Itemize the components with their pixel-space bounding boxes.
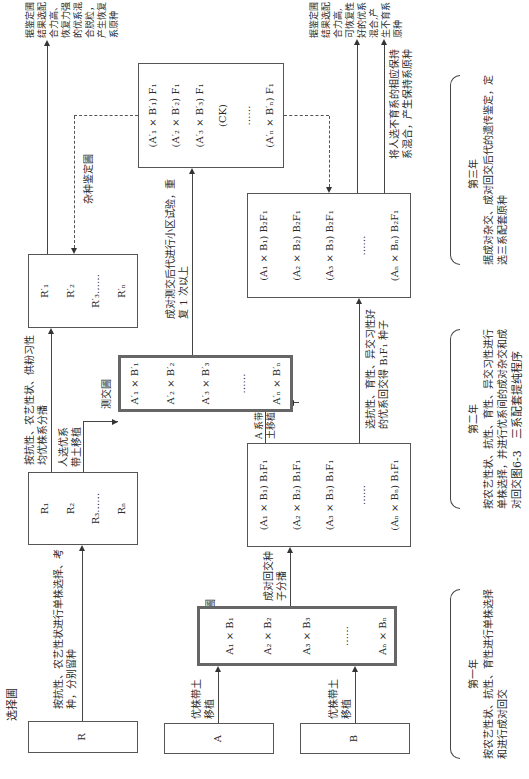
r-prime-item: R′₂	[65, 284, 76, 298]
b1f1-item: ……	[356, 485, 367, 505]
edge-label-b-to-backcross: 优株带土移植	[327, 671, 353, 719]
b1f1-item: (Aₙ × Bₙ) B₁F₁	[389, 459, 400, 530]
f1-item: (A′₁ × B′₁) F₁	[147, 84, 158, 148]
testcross-pair: A′₁ × B′₁	[129, 363, 140, 405]
f1-item: (A′₂ × B′₂) F₁	[170, 84, 181, 148]
box-R: R	[28, 721, 138, 753]
b1f1-item: (A₁ × B₁) B₁F₁	[258, 460, 269, 531]
edge-rseries-to-testcross	[83, 422, 84, 472]
dashed-f1-to-rprime	[74, 116, 75, 248]
arrow-icon	[44, 40, 50, 46]
arrow-icon	[112, 419, 118, 425]
box-A-label: A	[212, 724, 223, 753]
box-B-label: B	[348, 724, 359, 753]
b2f1-item: ……	[356, 236, 367, 256]
edge-label-b2f1-result: 据鉴定圃结果选配合力高,可恢复性好的优系混合,产生不育系原种	[308, 2, 404, 38]
edge-label-a-to-backcross: 优株带土移植	[190, 671, 216, 719]
dashed-f1-to-b2f1	[329, 116, 330, 187]
r-prime-item: R′₁	[39, 284, 50, 298]
edge-label-rseries-to-testcross: 人选优系带土移植	[57, 423, 83, 467]
b2f1-item: (A₁ × B₁) B₂F₁	[258, 210, 269, 281]
dashed-f1-to-b2f1-vertical	[284, 115, 329, 116]
b2f1-item: (Aₙ × Bₙ) B₂F₁	[389, 210, 400, 281]
backcross-pair: ……	[339, 626, 350, 646]
arrow-icon	[48, 328, 54, 334]
backcross-pair: A₂ × B₂	[262, 617, 273, 654]
box-b1f1: (A₁ × B₁) B₁F₁ (A₂ × B₂) B₁F₁ (A₃ × B₃) …	[247, 443, 411, 547]
arrow-icon	[354, 39, 360, 45]
hybrid-identification-label: 杂种鉴定圃	[82, 154, 95, 204]
edge-label-rseries-to-rprime: 按抗性、农艺性状、供粉习性均优株系分播	[23, 335, 49, 465]
testcross-pair: A′₃ × B′₃	[200, 363, 211, 405]
testcross-nursery-label: 测交圃	[100, 379, 113, 409]
backcross-pair: A₁ × B₁	[224, 617, 235, 654]
b2f1-item: (A₃ × B₃) B₂F₁	[324, 210, 335, 281]
testcross-pair: ……	[236, 374, 247, 394]
testcross-nursery-box: A′₁ × B′₁ A′₂ × B′₂ A′₃ × B′₃ …… A′ₙ × B…	[118, 355, 293, 412]
box-B: B	[300, 723, 410, 754]
edge-rprime-to-result	[47, 46, 48, 254]
arrow-icon	[79, 545, 85, 551]
arrow-icon	[381, 39, 387, 45]
year-3-desc: 据成对杂交、成对回交后代的遗传鉴定，定选三系配套原种	[482, 75, 510, 265]
brace-year-1	[450, 589, 460, 759]
edge-label-testcross-to-f1: 成对测交后代进行小区试验，重复 1 次以上	[164, 179, 190, 319]
edge-label-b2f1-maintainer: 将人选不育系的相应保持系混合，产生保持系原种	[388, 49, 414, 159]
edge-label-backcross-to-b1f1: 成对回交种子分播	[262, 551, 288, 601]
f1-item: ……	[241, 106, 252, 126]
edge-a-to-backcross	[218, 671, 219, 723]
r-prime-item: R′ₙ	[116, 284, 127, 298]
brace-year-3	[450, 75, 460, 265]
arrow-icon	[71, 248, 77, 254]
arrow-icon	[326, 187, 332, 193]
edge-r-to-rseries	[82, 551, 83, 721]
edge-label-rprime-result: 据鉴定圃结果选配合力高、恢复力强的优系混合脱粒，产生恢复系原种	[24, 2, 120, 38]
edge-b-to-backcross	[355, 671, 356, 723]
dashed-f1-to-rprime-vertical	[74, 115, 138, 116]
testcross-pair: A′₂ × B′₂	[165, 363, 176, 405]
year-3-label: 第三年	[465, 159, 480, 189]
brace-year-2	[450, 329, 460, 509]
box-b2f1: (A₁ × B₁) B₂F₁ (A₂ × B₂) B₂F₁ (A₃ × B₃) …	[247, 193, 411, 298]
f1-item: (A′₃ × B′₃) F₁	[194, 84, 205, 148]
edge-label-b1f1-to-b2f1: 选抗性、育性、异交习性好的优系回交得 B₁F₁ 种子	[364, 301, 390, 429]
f1-item: (CK)	[217, 104, 228, 127]
year-1-label: 第一年	[465, 659, 480, 689]
edge-testcross-to-f1	[192, 174, 193, 355]
figure-caption: 图6-3 三系配套提纯程序	[508, 351, 524, 479]
edge-rseries-to-rprime	[51, 334, 52, 472]
b1f1-item: (A₂ × B₂) B₁F₁	[291, 460, 302, 531]
backcross-pair: Aₙ × Bₙ	[377, 617, 388, 655]
b2f1-item: (A₂ × B₂) B₂F₁	[291, 210, 302, 281]
edge-b2f1-to-result	[357, 45, 358, 193]
backcross-nursery-box: A₁ × B₁ A₂ × B₂ A₃ × B₃ …… Aₙ × Bₙ	[197, 606, 397, 666]
r-item: R₁	[39, 503, 50, 515]
b1f1-item: (A₃ × B₃) B₁F₁	[324, 460, 335, 531]
r-item: R₃……	[90, 493, 101, 525]
edge-b2f1-to-maintainer	[384, 45, 385, 193]
r-prime-item: R′₃……	[90, 274, 101, 308]
box-R-series: R₁ R₂ R₃…… Rₙ	[28, 472, 138, 545]
box-f1-hybrids: (A′₁ × B′₁) F₁ (A′₂ × B′₂) F₁ (A′₃ × B′₃…	[138, 63, 284, 168]
f1-item: (A′ₙ × B′ₙ) F₁	[264, 83, 275, 147]
backcross-pair: A₃ × B₃	[301, 617, 312, 654]
diagram-canvas: 选择圃 R A B 按抗性、农艺性状进行单株选择、考种，分别留种 优株带土移植 …	[0, 0, 529, 779]
box-R-prime-series: R′₁ R′₂ R′₃…… R′ₙ	[28, 254, 138, 328]
arrow-icon	[356, 298, 362, 304]
year-2-label: 第二年	[465, 404, 480, 434]
edge-b1f1-to-b2f1	[359, 304, 360, 443]
year-1-desc: 按农艺性状、抗性、育性进行单株选择和进行成对回交	[482, 587, 510, 759]
box-A: A	[164, 723, 274, 754]
selection-nursery-label: 选择圃	[6, 688, 19, 721]
testcross-pair: A′ₙ × B′ₙ	[271, 362, 282, 405]
edge-label-r-to-rseries: 按抗性、农艺性状进行单株选择、考种，分别留种	[52, 549, 78, 709]
arrow-icon	[189, 168, 195, 174]
r-item: R₂	[65, 503, 76, 515]
box-R-label: R	[76, 722, 87, 752]
r-item: Rₙ	[116, 503, 127, 515]
edge-backcross-to-b1f1	[290, 552, 291, 606]
